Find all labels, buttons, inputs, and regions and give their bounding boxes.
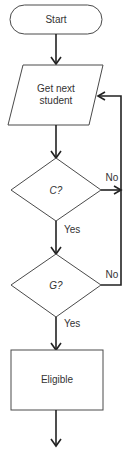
decision-g-node: G? — [11, 254, 101, 317]
start-node: Start — [10, 5, 102, 34]
decision-g-label: G? — [49, 280, 63, 291]
get-next-student-node: Get next student — [8, 65, 103, 125]
edge-get-to-c — [51, 125, 61, 158]
get-label-line1: Get next — [37, 83, 75, 94]
g-yes-label: Yes — [64, 318, 80, 329]
decision-c-node: C? — [11, 158, 101, 221]
eligible-label: Eligible — [41, 374, 74, 385]
edge-start-to-get — [51, 34, 61, 64]
decision-c-label: C? — [50, 185, 63, 196]
edge-g-yes: Yes — [51, 317, 80, 350]
eligible-node: Eligible — [11, 350, 103, 410]
c-yes-label: Yes — [64, 224, 80, 235]
edge-c-no: No — [101, 172, 121, 194]
start-label: Start — [45, 14, 66, 25]
edge-eligible-out — [51, 410, 61, 446]
get-label-line2: student — [40, 95, 73, 106]
c-no-label: No — [106, 172, 119, 183]
edge-c-yes: Yes — [51, 221, 80, 254]
flowchart: Start Get next student C? No Yes — [0, 0, 130, 452]
g-no-label: No — [106, 269, 119, 280]
